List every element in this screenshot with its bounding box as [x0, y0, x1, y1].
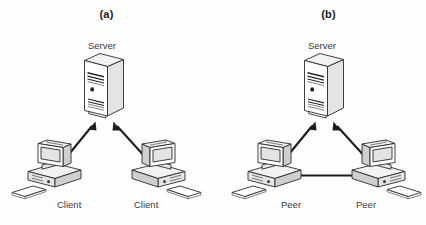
- panel-a-graphics: [0, 0, 213, 225]
- panel-client-server: (a): [0, 0, 213, 225]
- node-label-peer-right: Peer: [356, 200, 376, 210]
- network-topology-figure: (a): [0, 0, 426, 225]
- desktop-computer-icon-right: [132, 140, 201, 199]
- desktop-computer-icon-right: [352, 140, 421, 199]
- panel-b-graphics: [213, 0, 426, 225]
- server-tower-icon: [305, 54, 344, 119]
- server-tower-icon: [85, 54, 124, 119]
- node-label-server-a: Server: [88, 41, 116, 51]
- desktop-computer-icon-left: [12, 140, 81, 199]
- node-label-server-b: Server: [308, 41, 336, 51]
- node-label-peer-left: Peer: [281, 200, 301, 210]
- desktop-computer-icon-left: [232, 140, 301, 199]
- node-label-client-left: Client: [57, 200, 81, 210]
- panel-peer-to-peer: (b): [213, 0, 426, 225]
- node-label-client-right: Client: [134, 200, 158, 210]
